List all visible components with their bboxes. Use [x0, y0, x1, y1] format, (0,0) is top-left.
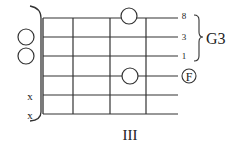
finger-dot-string-1: [121, 8, 137, 24]
string-label-3: 1: [182, 51, 187, 61]
muted-marker-5: x: [27, 90, 33, 102]
frets: [73, 18, 146, 114]
finger-dot-string-4: [122, 68, 138, 84]
muted-marker-6: x: [27, 109, 33, 121]
string-label-4: F: [186, 70, 193, 84]
nut-bracket: [30, 6, 41, 121]
group-brace: [194, 15, 203, 61]
string-label-2: 3: [182, 32, 187, 42]
group-label: G3: [206, 30, 226, 47]
open-string-marker-2: [18, 29, 34, 45]
fret-position-label: III: [123, 127, 138, 143]
string-label-1: 8: [182, 11, 187, 21]
chord-diagram: x x 8 3 1 G3 F III: [0, 0, 243, 146]
open-string-marker-3: [18, 48, 34, 64]
